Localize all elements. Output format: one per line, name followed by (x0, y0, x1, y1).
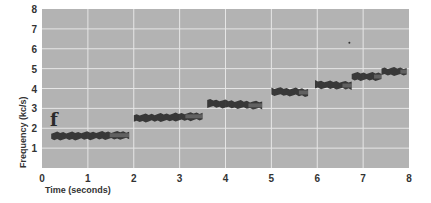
x-tick-label: 1 (85, 173, 91, 184)
x-tick-label: 5 (269, 173, 275, 184)
pitch-segment-tail (185, 114, 202, 118)
x-tick-label: 3 (177, 173, 183, 184)
y-axis-label: Frequency (kc/s) (18, 96, 28, 168)
noise-dot (348, 42, 350, 44)
y-axis-ticks: 12345678 (31, 4, 37, 154)
x-axis-ticks: 012345678 (39, 173, 412, 184)
x-tick-label: 7 (360, 173, 366, 184)
x-axis-label: Time (seconds) (45, 185, 111, 195)
spectrogram-chart: 012345678 12345678 Time (seconds) Freque… (0, 0, 431, 203)
y-tick-label: 8 (31, 4, 37, 15)
y-tick-label: 5 (31, 64, 37, 75)
x-tick-label: 6 (314, 173, 320, 184)
x-tick-label: 2 (131, 173, 137, 184)
pitch-segment-tail (248, 103, 262, 107)
x-tick-label: 8 (406, 173, 412, 184)
x-tick-label: 4 (223, 173, 229, 184)
y-tick-label: 2 (31, 123, 37, 134)
pitch-segment-tail (374, 75, 381, 79)
y-tick-label: 4 (31, 84, 37, 95)
pitch-segment-tail (342, 84, 351, 88)
pitch-segment-tail (110, 133, 129, 137)
y-tick-label: 1 (31, 143, 37, 154)
y-tick-label: 3 (31, 103, 37, 114)
y-tick-label: 6 (31, 44, 37, 55)
pitch-segment-tail (400, 70, 406, 74)
y-tick-label: 7 (31, 24, 37, 35)
x-tick-label: 0 (39, 173, 45, 184)
pitch-segment-tail (299, 90, 308, 94)
panel-label: f (50, 109, 59, 130)
